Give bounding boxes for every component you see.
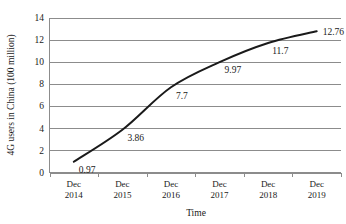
line-chart: 02468101214 Dec2014Dec2015Dec2016Dec2017… [0,0,346,224]
y-tick-label: 10 [35,57,45,67]
data-point-label: 12.76 [323,27,345,37]
x-category-label: 2017 [211,190,230,200]
y-axis-title: 4G users in China (100 million) [6,34,17,155]
y-tick-labels: 02468101214 [35,13,45,178]
data-point-label: 0.97 [79,165,96,175]
x-category-label: Dec [261,179,276,189]
y-tick-label: 4 [39,124,44,134]
y-tick-label: 2 [39,146,44,156]
x-category-label: 2019 [308,190,327,200]
y-tick-label: 6 [39,101,44,111]
x-category-label: Dec [212,179,227,189]
x-category-label: Dec [164,179,179,189]
data-point-label: 11.7 [272,46,289,56]
data-point-label: 7.7 [176,91,188,101]
x-axis-title: Time [186,208,206,218]
x-category-labels: Dec2014Dec2015Dec2016Dec2017Dec2018Dec20… [65,179,326,200]
data-point-labels: 0.973.867.79.9711.712.76 [79,27,345,175]
x-category-label: 2014 [65,190,84,200]
y-tick-label: 8 [39,79,44,89]
x-category-label: 2015 [113,190,132,200]
data-point-label: 3.86 [127,133,144,143]
y-tick-label: 12 [35,35,45,45]
x-category-label: 2018 [259,190,278,200]
x-category-label: Dec [309,179,324,189]
chart-canvas: 02468101214 Dec2014Dec2015Dec2016Dec2017… [0,0,346,224]
y-tick-label: 14 [35,13,45,23]
x-category-label: Dec [67,179,82,189]
data-point-label: 9.97 [225,65,242,75]
x-category-label: 2016 [162,190,181,200]
y-tick-label: 0 [39,168,44,178]
x-category-label: Dec [115,179,130,189]
